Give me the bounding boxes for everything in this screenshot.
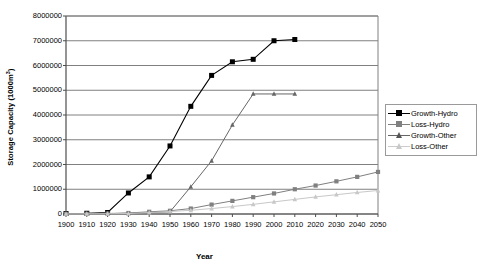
legend-label-loss-hydro: Loss-Hydro	[410, 120, 449, 129]
legend-marker-growth-other-icon	[388, 130, 410, 141]
series-line	[66, 190, 378, 213]
data-point-marker	[292, 37, 297, 42]
data-point-marker	[230, 199, 234, 203]
legend-item-loss-hydro[interactable]: Loss-Hydro	[388, 119, 473, 130]
data-point-marker	[209, 73, 214, 78]
chart-legend: Growth-Hydro Loss-Hydro Growth-Other Los…	[385, 104, 477, 156]
legend-marker-loss-hydro-icon	[388, 119, 410, 130]
legend-label-loss-other: Loss-Other	[410, 142, 448, 151]
legend-item-loss-other[interactable]: Loss-Other	[388, 141, 473, 152]
data-point-marker	[355, 175, 359, 179]
data-point-marker	[376, 170, 380, 174]
data-point-marker	[251, 57, 256, 62]
legend-item-growth-hydro[interactable]: Growth-Hydro	[388, 108, 473, 119]
legend-item-growth-other[interactable]: Growth-Other	[388, 130, 473, 141]
data-point-marker	[147, 174, 152, 179]
data-point-marker	[272, 38, 277, 43]
data-point-marker	[251, 195, 255, 199]
data-point-marker	[230, 59, 235, 64]
data-point-marker	[188, 104, 193, 109]
data-point-marker	[314, 183, 318, 187]
data-point-marker	[168, 143, 173, 148]
legend-marker-loss-other-icon	[388, 141, 410, 152]
series-loss-other	[64, 188, 381, 216]
legend-label-growth-other: Growth-Other	[410, 131, 456, 140]
data-point-marker	[334, 179, 338, 183]
legend-marker-growth-hydro-icon	[388, 108, 410, 119]
data-point-marker	[272, 191, 276, 195]
data-point-marker	[376, 188, 381, 192]
data-point-marker	[126, 190, 131, 195]
legend-label-growth-hydro: Growth-Hydro	[410, 109, 458, 118]
chart-container: Storage Capacity (1000m3) 01000000200000…	[0, 0, 482, 275]
series-growth-other	[64, 91, 297, 215]
data-point-marker	[293, 187, 297, 191]
